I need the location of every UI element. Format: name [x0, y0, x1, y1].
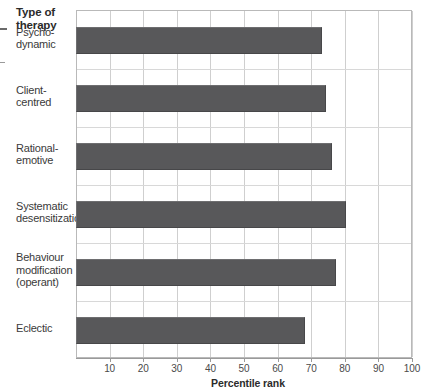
gridline-50 — [244, 11, 245, 357]
x-tick-40 — [210, 358, 211, 362]
category-label-line: Client- — [16, 84, 78, 96]
bar — [76, 201, 346, 228]
category-label: Systematicdesensitization — [16, 200, 78, 225]
row-separator — [77, 127, 411, 128]
category-label-line: centred — [16, 96, 78, 108]
x-tick-50 — [244, 358, 245, 362]
x-tick-label: 40 — [196, 363, 224, 374]
category-label-line: (operant) — [16, 276, 78, 288]
x-tick-20 — [143, 358, 144, 362]
bar — [76, 259, 336, 286]
x-tick-10 — [110, 358, 111, 362]
x-tick-label: 50 — [230, 363, 258, 374]
category-label-line: Eclectic — [16, 322, 78, 334]
gridline-60 — [278, 11, 279, 357]
category-axis-title-line1: Type of — [16, 6, 76, 19]
category-label-line: dynamic — [16, 38, 78, 50]
category-label: Rational-emotive — [16, 142, 78, 167]
x-tick-label: 90 — [364, 363, 392, 374]
row-separator — [77, 243, 411, 244]
x-tick-label: 70 — [297, 363, 325, 374]
bar — [76, 85, 326, 112]
x-tick-30 — [177, 358, 178, 362]
row-separator — [77, 69, 411, 70]
gridline-30 — [177, 11, 178, 357]
category-label-line: Behaviour — [16, 251, 78, 263]
x-tick-label: 100 — [398, 363, 426, 374]
gridline-70 — [311, 11, 312, 357]
gridline-100 — [412, 11, 413, 357]
gridline-40 — [210, 11, 211, 357]
plot-area — [76, 10, 412, 358]
cropped-edge-mark — [0, 28, 7, 30]
category-label: Behaviourmodification(operant) — [16, 251, 78, 288]
category-label: Client-centred — [16, 84, 78, 109]
bar — [76, 317, 305, 344]
row-separator — [77, 185, 411, 186]
gridline-10 — [110, 11, 111, 357]
category-label-line: modification — [16, 264, 78, 276]
row-separator — [77, 301, 411, 302]
category-label: Eclectic — [16, 322, 78, 334]
x-axis-title: Percentile rank — [0, 377, 428, 389]
x-tick-100 — [412, 358, 413, 362]
x-tick-label: 80 — [331, 363, 359, 374]
gridline-20 — [143, 11, 144, 357]
gridline-90 — [378, 11, 379, 357]
x-tick-label: 30 — [163, 363, 191, 374]
x-tick-90 — [378, 358, 379, 362]
x-tick-70 — [311, 358, 312, 362]
x-tick-label: 60 — [264, 363, 292, 374]
x-tick-label: 10 — [96, 363, 124, 374]
x-tick-60 — [278, 358, 279, 362]
chart-root: Type of therapy Psycho-dynamicClient-cen… — [0, 0, 428, 391]
bar — [76, 27, 322, 54]
category-label-line: Rational- — [16, 142, 78, 154]
x-tick-label: 20 — [129, 363, 157, 374]
bar — [76, 143, 332, 170]
gridline-80 — [345, 11, 346, 357]
category-label: Psycho-dynamic — [16, 26, 78, 51]
category-label-line: Systematic — [16, 200, 78, 212]
category-label-line: desensitization — [16, 212, 78, 224]
cropped-edge-mark-secondary — [0, 62, 5, 63]
x-tick-80 — [345, 358, 346, 362]
category-label-line: emotive — [16, 154, 78, 166]
category-label-line: Psycho- — [16, 26, 78, 38]
